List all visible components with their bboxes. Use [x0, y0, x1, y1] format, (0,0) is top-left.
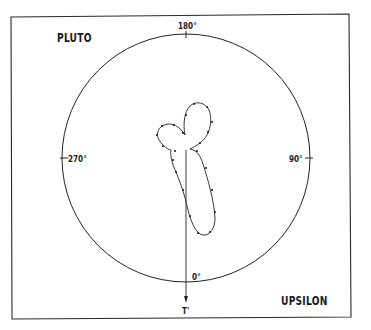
pointer-arrow-icon — [184, 296, 188, 303]
title-left: PLUTO — [57, 31, 92, 44]
angle-label-180: 180° — [178, 21, 197, 31]
angle-label-90: 90° — [289, 154, 303, 164]
angle-label-270: 270° — [68, 154, 87, 164]
pointer-label: T' — [182, 306, 189, 316]
angle-label-0: 0° — [192, 272, 201, 282]
polar-diagram — [0, 0, 371, 330]
title-right: UPSILON — [281, 294, 328, 307]
